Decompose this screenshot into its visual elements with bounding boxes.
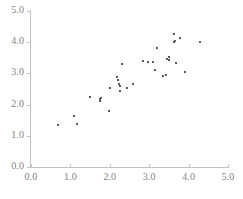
data-point: [119, 85, 121, 87]
x-tick-label: 4.0: [177, 171, 201, 182]
data-point: [152, 61, 154, 63]
data-point: [154, 69, 156, 71]
data-point: [109, 87, 111, 89]
data-point: [142, 60, 144, 62]
data-point: [119, 90, 121, 92]
x-tick-label: 5.0: [216, 171, 240, 182]
data-point: [99, 100, 101, 102]
y-tick-label: 3.0: [0, 66, 24, 77]
data-point: [132, 83, 134, 85]
data-point: [117, 79, 119, 81]
data-point: [199, 41, 201, 43]
x-tick-label: 3.0: [137, 171, 161, 182]
data-point: [100, 97, 102, 99]
data-point: [173, 33, 175, 35]
x-tick-label: 1.0: [58, 171, 82, 182]
data-point: [179, 37, 181, 39]
y-tick-label: 2.0: [0, 98, 24, 109]
data-point: [57, 124, 59, 126]
data-point: [165, 74, 167, 76]
data-point: [73, 115, 75, 117]
data-point: [156, 47, 158, 49]
data-point: [116, 76, 118, 78]
x-axis-line: [30, 167, 229, 168]
data-point: [168, 56, 170, 58]
data-point: [147, 61, 149, 63]
data-point: [89, 96, 91, 98]
data-point: [76, 123, 78, 125]
scatter-chart: 0.01.02.03.04.05.0 0.01.02.03.04.05.0: [0, 0, 243, 199]
data-point: [121, 63, 123, 65]
data-point: [162, 75, 164, 77]
x-tick-mark: [228, 164, 229, 168]
data-point: [175, 62, 177, 64]
data-point: [108, 110, 110, 112]
data-point: [184, 71, 186, 73]
x-tick-label: 0.0: [19, 171, 43, 182]
plot-area: [31, 11, 228, 167]
y-tick-label: 1.0: [0, 129, 24, 140]
data-point: [168, 59, 170, 61]
y-tick-label: 4.0: [0, 35, 24, 46]
y-tick-label: 0.0: [0, 160, 24, 171]
data-point: [174, 40, 176, 42]
y-tick-label: 5.0: [0, 4, 24, 15]
x-tick-label: 2.0: [98, 171, 122, 182]
data-point: [126, 87, 128, 89]
